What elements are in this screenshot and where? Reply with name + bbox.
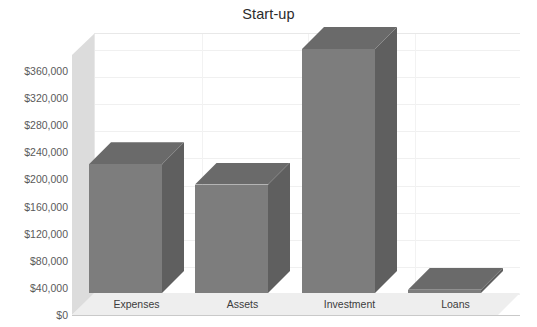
bar-side-face [375, 27, 397, 293]
bar-front-face [408, 290, 481, 293]
y-axis-tick-label: $360,000 [4, 65, 68, 77]
plot-area [72, 33, 520, 293]
x-axis-category-label: Investment [324, 298, 375, 310]
y-axis-tick-label: $40,000 [4, 282, 68, 294]
bar-loans[interactable] [408, 268, 481, 293]
bar-front-face [302, 49, 375, 293]
x-axis: ExpensesAssetsInvestmentLoans [72, 298, 520, 322]
y-axis-tick-label: $120,000 [4, 228, 68, 240]
bar-front-face [89, 164, 162, 293]
y-axis-tick-label: $160,000 [4, 201, 68, 213]
y-axis-tick-label: $0 [4, 309, 68, 321]
bar-side-face [268, 163, 290, 293]
bar-side-face [162, 142, 184, 293]
bar-front-face [195, 185, 268, 293]
y-axis-tick-label: $80,000 [4, 255, 68, 267]
x-axis-category-label: Expenses [113, 298, 159, 310]
x-axis-category-label: Assets [227, 298, 259, 310]
bar-chart: Start-up $0$40,000$80,000$120,000$160,00… [0, 0, 537, 327]
y-axis-tick-label: $200,000 [4, 173, 68, 185]
chart-title: Start-up [0, 6, 537, 22]
y-axis-tick-label: $280,000 [4, 119, 68, 131]
y-axis: $0$40,000$80,000$120,000$160,000$200,000… [0, 33, 68, 295]
category-separator [415, 34, 416, 293]
bar-investment[interactable] [302, 27, 375, 293]
y-axis-tick-label: $320,000 [4, 92, 68, 104]
bar-expenses[interactable] [89, 142, 162, 293]
y-axis-tick-label: $240,000 [4, 146, 68, 158]
x-axis-category-label: Loans [441, 298, 470, 310]
bar-assets[interactable] [195, 163, 268, 293]
